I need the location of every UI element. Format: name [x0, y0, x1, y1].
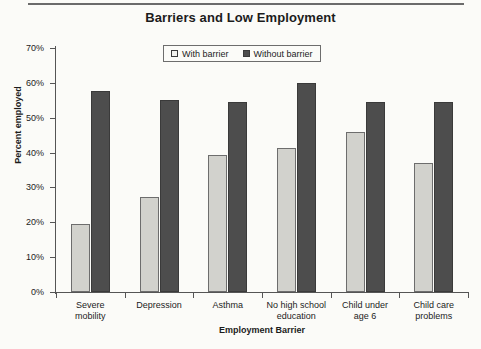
- x-tick-label-line: Depression: [121, 300, 198, 311]
- x-tick-mark: [262, 292, 263, 298]
- filled-square-swatch-icon: [243, 50, 250, 57]
- x-tick-label: Child underage 6: [327, 300, 404, 322]
- y-tick-label: 30%: [10, 182, 44, 192]
- bar: [297, 83, 316, 292]
- x-tick-label: Child careproblems: [395, 300, 472, 322]
- x-tick-label-line: Severe: [52, 300, 129, 311]
- bar: [346, 132, 365, 292]
- bar: [277, 148, 296, 292]
- bar: [140, 197, 159, 292]
- chart-page: Barriers and Low Employment Percent empl…: [0, 0, 481, 349]
- y-tick-label: 20%: [10, 217, 44, 227]
- x-tick-mark: [125, 292, 126, 298]
- bar: [91, 91, 110, 292]
- x-tick-label-line: No high school: [258, 300, 335, 311]
- y-tick-label: 0%: [10, 287, 44, 297]
- bar: [434, 102, 453, 292]
- y-tick-label: 40%: [10, 148, 44, 158]
- y-tick-label: 50%: [10, 113, 44, 123]
- bar: [160, 100, 179, 292]
- bar: [208, 155, 227, 292]
- legend-label: Without barrier: [254, 49, 313, 59]
- x-tick-label-line: problems: [395, 311, 472, 322]
- legend-label: With barrier: [182, 49, 229, 59]
- x-tick-label: No high schooleducation: [258, 300, 335, 322]
- x-tick-mark: [193, 292, 194, 298]
- y-tick-label: 70%: [10, 43, 44, 53]
- bar: [366, 102, 385, 292]
- header-rule: [28, 3, 464, 5]
- x-tick-mark: [56, 292, 57, 298]
- bar: [228, 102, 247, 292]
- x-tick-label-line: Child under: [327, 300, 404, 311]
- x-tick-label-line: mobility: [52, 311, 129, 322]
- x-tick-label-line: Asthma: [189, 300, 266, 311]
- legend-item-with-barrier: With barrier: [171, 49, 229, 59]
- bar: [71, 224, 90, 292]
- legend-item-without-barrier: Without barrier: [243, 49, 313, 59]
- chart-legend: With barrier Without barrier: [163, 45, 321, 62]
- chart-title: Barriers and Low Employment: [0, 10, 481, 25]
- x-tick-mark: [468, 292, 469, 298]
- y-tick-label: 10%: [10, 252, 44, 262]
- x-tick-label-line: Child care: [395, 300, 472, 311]
- x-tick-mark: [399, 292, 400, 298]
- y-tick-label: 60%: [10, 78, 44, 88]
- x-axis-title: Employment Barrier: [56, 325, 468, 335]
- plot-area: [56, 48, 468, 292]
- x-tick-label-line: age 6: [327, 311, 404, 322]
- bar: [414, 163, 433, 292]
- x-tick-mark: [331, 292, 332, 298]
- x-tick-label: Depression: [121, 300, 198, 311]
- open-square-swatch-icon: [171, 50, 178, 57]
- x-tick-label-line: education: [258, 311, 335, 322]
- x-tick-label: Severemobility: [52, 300, 129, 322]
- x-tick-label: Asthma: [189, 300, 266, 311]
